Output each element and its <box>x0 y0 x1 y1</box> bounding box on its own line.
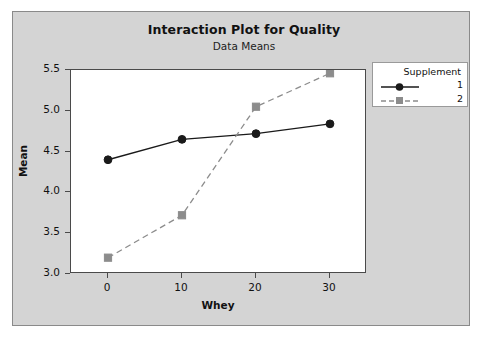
y-axis-tick-label: 5.0 <box>26 103 60 115</box>
filled-circle-marker <box>380 79 420 93</box>
series-line-2 <box>108 73 330 257</box>
chart-subtitle: Data Means <box>0 40 488 52</box>
y-axis-tick-label: 4.0 <box>26 184 60 196</box>
filled-square-marker <box>380 93 420 107</box>
data-point-marker-1 <box>178 135 186 143</box>
plot-area <box>70 69 366 273</box>
x-axis-tick-label: 0 <box>87 281 127 293</box>
x-axis-tick-label: 20 <box>235 281 275 293</box>
data-point-marker-2 <box>178 212 185 219</box>
interaction-plot-screenshot: Interaction Plot for Quality Data Means … <box>0 0 488 343</box>
data-point-marker-2 <box>104 254 111 261</box>
y-axis-tick-label: 3.5 <box>26 225 60 237</box>
data-point-marker-1 <box>326 120 334 128</box>
series-line-1 <box>108 124 330 160</box>
y-axis-tick-label: 4.5 <box>26 144 60 156</box>
data-point-marker-2 <box>326 70 333 77</box>
y-axis-label: Mean <box>17 131 29 191</box>
plot-series-canvas <box>71 70 367 274</box>
y-axis-tick-label: 3.0 <box>26 266 60 278</box>
data-point-marker-1 <box>252 130 260 138</box>
legend-entry-label: 1 <box>457 79 463 90</box>
legend-entry-2: 2 <box>373 93 469 107</box>
data-point-marker-2 <box>252 103 259 110</box>
legend: Supplement 12 <box>372 62 468 107</box>
legend-entry-label: 2 <box>457 93 463 104</box>
y-axis-tick-label: 5.5 <box>26 62 60 74</box>
legend-entry-1: 1 <box>373 79 469 93</box>
x-axis-tick-label: 10 <box>161 281 201 293</box>
x-axis-tick-label: 30 <box>309 281 349 293</box>
legend-title: Supplement <box>404 66 461 77</box>
y-axis-tick-mark <box>65 273 70 274</box>
x-axis-label: Whey <box>70 299 366 311</box>
data-point-marker-1 <box>104 156 112 164</box>
chart-title: Interaction Plot for Quality <box>0 22 488 37</box>
